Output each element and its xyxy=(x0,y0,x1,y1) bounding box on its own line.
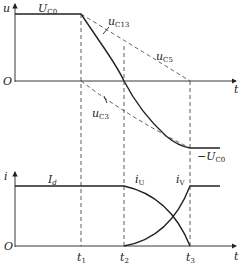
t2-label: t2 xyxy=(120,251,129,265)
u-c5-curve xyxy=(81,14,190,81)
i-d-label: Id xyxy=(47,173,57,187)
i-u-curve xyxy=(15,186,190,246)
t1-label: t1 xyxy=(77,251,86,265)
u-axis-label: u xyxy=(3,2,10,15)
i-v-label: iV xyxy=(176,173,186,187)
u-c5-label: uC5 xyxy=(156,50,173,64)
i-u-label: iU xyxy=(135,173,145,187)
t-axis-label-bottom: t xyxy=(234,250,239,263)
i-axis-label: i xyxy=(4,170,8,183)
u-c0-label: UC0 xyxy=(38,2,57,16)
time-markers: t1 t2 t3 xyxy=(77,14,195,265)
origin-label-top: O xyxy=(3,75,12,88)
u-c13-label: uC13 xyxy=(108,15,129,29)
bottom-plot: i O t Id iU iV xyxy=(4,170,239,263)
t-axis-label-top: t xyxy=(234,83,239,96)
origin-label-bottom: O xyxy=(4,240,13,253)
u-c3-label: uC3 xyxy=(92,107,109,121)
commutation-waveform-diagram: u O t UC0 uC13 uC5 uC3 −UC0 i O t Id iU … xyxy=(0,0,243,267)
neg-u-c0-label: −UC0 xyxy=(197,150,225,164)
t3-label: t3 xyxy=(186,251,195,265)
top-plot: u O t UC0 uC13 uC5 uC3 −UC0 xyxy=(3,2,239,164)
